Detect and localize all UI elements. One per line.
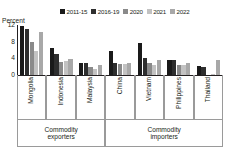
category-label: Thailand	[205, 77, 212, 102]
bar-group	[105, 25, 134, 75]
legend-item[interactable]: 2020	[123, 9, 142, 15]
legend-item-label: 2016-19	[98, 9, 119, 15]
bar	[30, 42, 34, 75]
category-label-cell: Vietnam	[135, 75, 164, 120]
legend-item[interactable]: 2011-15	[60, 9, 87, 15]
bar	[167, 60, 171, 75]
bar	[181, 65, 185, 75]
bar	[143, 58, 147, 76]
plot-area	[17, 25, 223, 75]
panel-group-label-cell: Commodityimporters	[105, 120, 223, 147]
bar	[34, 51, 38, 75]
category-label: China	[117, 77, 124, 94]
category-label-cell: China	[105, 75, 134, 120]
category-label-cell: Philippines	[164, 75, 193, 120]
bar-group	[17, 25, 46, 75]
bar	[54, 54, 58, 75]
bar-group	[194, 25, 223, 75]
bar	[201, 67, 205, 75]
bar-group	[135, 25, 164, 75]
category-label-cell: Mongolia	[17, 75, 46, 120]
bar	[98, 65, 102, 75]
bar	[68, 59, 72, 75]
category-label: Philippines	[176, 77, 183, 109]
bar	[50, 48, 54, 76]
bar	[216, 60, 220, 75]
category-label: Malaysia	[87, 77, 94, 103]
legend-swatch-icon	[60, 9, 65, 14]
category-label: Mongolia	[28, 77, 35, 104]
legend-item[interactable]: 2016-19	[91, 9, 119, 15]
category-label: Vietnam	[146, 77, 153, 101]
panel-label-row: CommodityexportersCommodityimporters	[17, 120, 223, 147]
legend-swatch-icon	[170, 9, 175, 14]
y-axis-tick-label: 4	[11, 55, 15, 62]
category-label-row: MongoliaIndonesiaMalaysiaChinaVietnamPhi…	[17, 75, 223, 120]
legend-item[interactable]: 2022	[170, 9, 189, 15]
bar	[186, 63, 190, 75]
panel-group-label-line1: Commodity	[147, 126, 180, 133]
bar	[59, 62, 63, 75]
legend-item-label: 2022	[177, 9, 190, 15]
bar	[25, 29, 29, 75]
bar	[79, 63, 83, 75]
bar	[177, 65, 181, 75]
legend-item-label: 2021	[153, 9, 166, 15]
legend-swatch-icon	[123, 9, 128, 14]
bar	[109, 51, 113, 75]
bar	[64, 61, 68, 75]
bar	[123, 64, 127, 75]
bar	[84, 63, 88, 75]
category-label-cell: Malaysia	[76, 75, 105, 120]
bar	[138, 43, 142, 75]
panel-group-label-line2: importers	[150, 133, 177, 140]
bar-chart: 2011-152016-19202020212022 Percent 04812…	[0, 0, 226, 148]
bar	[152, 65, 156, 75]
chart-legend: 2011-152016-19202020212022	[60, 7, 224, 17]
bar-group	[164, 25, 193, 75]
legend-swatch-icon	[91, 9, 96, 14]
bar	[147, 63, 151, 75]
bar-group	[46, 25, 75, 75]
bar	[118, 64, 122, 75]
bar	[157, 60, 161, 75]
bar-group	[76, 25, 105, 75]
y-axis-tick-label: 12	[8, 22, 15, 29]
legend-item-label: 2020	[130, 9, 143, 15]
y-axis-tick-label: 0	[11, 72, 15, 79]
y-axis-tick-labels: 04812	[0, 25, 17, 75]
bar	[113, 63, 117, 75]
category-label-cell: Indonesia	[46, 75, 75, 120]
panel-group-label-line1: Commodity	[44, 126, 77, 133]
y-axis-tick-label: 8	[11, 38, 15, 45]
panel-group-label-cell: Commodityexporters	[17, 120, 105, 147]
bar	[20, 26, 24, 75]
bar	[127, 63, 131, 75]
legend-item-label: 2011-15	[67, 9, 88, 15]
bar	[88, 67, 92, 75]
category-label: Indonesia	[58, 77, 65, 106]
category-label-cell: Thailand	[194, 75, 223, 120]
legend-item[interactable]: 2021	[147, 9, 166, 15]
panel-group-label-line2: exporters	[47, 133, 75, 140]
bar	[39, 32, 43, 75]
bar	[197, 66, 201, 75]
bar	[172, 60, 176, 75]
legend-swatch-icon	[147, 9, 152, 14]
